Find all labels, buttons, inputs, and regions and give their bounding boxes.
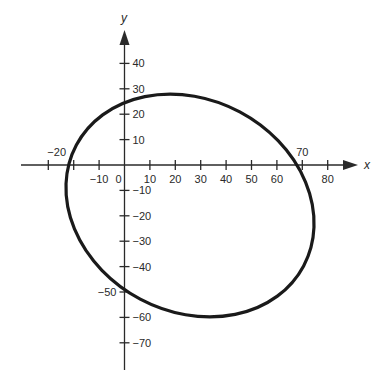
y-tick-label: 10 — [133, 134, 145, 146]
y-tick-label: 20 — [133, 108, 145, 120]
x-axis-arrow-icon — [343, 160, 358, 170]
y-tick-label: −50 — [98, 286, 117, 298]
x-tick-label: 80 — [322, 173, 334, 185]
x-tick-label: 40 — [220, 173, 232, 185]
y-tick-label: −30 — [133, 235, 152, 247]
y-axis-label: y — [120, 11, 128, 25]
x-tick-label: 20 — [169, 173, 181, 185]
x-tick-label: 30 — [195, 173, 207, 185]
x-tick-label: 0 — [115, 173, 121, 185]
x-tick-label: 60 — [271, 173, 283, 185]
y-tick-label: −40 — [133, 261, 152, 273]
ellipse-chart: x −20−1001020304050607080 y 40302010−10−… — [0, 0, 387, 388]
y-tick-label: −70 — [133, 337, 152, 349]
y-tick-label: −10 — [133, 184, 152, 196]
y-axis: y 40302010−10−20−30−40−50−60−70 — [98, 11, 151, 370]
x-tick-label: 10 — [144, 173, 156, 185]
x-tick-label: −10 — [90, 173, 109, 185]
ellipse-curve — [27, 51, 354, 359]
x-axis-label: x — [363, 158, 371, 172]
y-axis-arrow-icon — [120, 30, 130, 45]
x-tick-label: 50 — [245, 173, 257, 185]
y-tick-label: 30 — [133, 83, 145, 95]
y-tick-label: −60 — [133, 311, 152, 323]
y-tick-label: 40 — [133, 57, 145, 69]
x-tick-label: 70 — [296, 146, 308, 158]
y-tick-label: −20 — [133, 210, 152, 222]
x-tick-label: −20 — [47, 146, 66, 158]
